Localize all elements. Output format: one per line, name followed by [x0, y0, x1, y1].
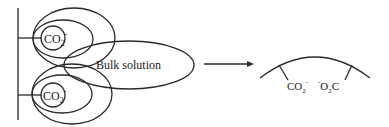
bottom-co2-label: CO2-: [43, 87, 67, 105]
right-carboxylate-stem: [345, 65, 352, 80]
right-arrow-icon: [204, 61, 254, 67]
top-co2-label: CO2-: [44, 30, 68, 48]
curved-surface: [260, 57, 370, 78]
right-carboxylate-label: -O2C: [318, 78, 339, 95]
bulk-solution-label: Bulk solution: [96, 58, 161, 72]
carboxylate-solvation-diagram: CO2- CO2- Bulk solution CO2- -O2C: [0, 0, 389, 127]
left-carboxylate-stem: [279, 65, 288, 80]
bottom-solvated-group: CO2-: [18, 64, 112, 124]
left-carboxylate-label: CO2-: [287, 78, 309, 95]
